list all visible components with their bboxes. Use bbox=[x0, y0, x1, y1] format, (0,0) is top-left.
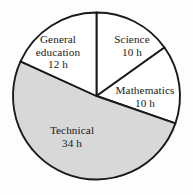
pie-chart-figure: General education 12 h Science 10 h Math… bbox=[0, 0, 193, 195]
pie-slice-group bbox=[13, 13, 180, 180]
pie-chart-svg bbox=[0, 0, 193, 195]
